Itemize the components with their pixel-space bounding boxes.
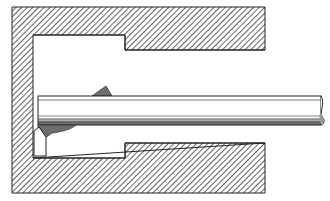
boring-operation-diagram (0, 0, 330, 201)
diagram-canvas (0, 0, 330, 201)
boring-bar (38, 96, 324, 125)
chip-top (92, 86, 112, 96)
